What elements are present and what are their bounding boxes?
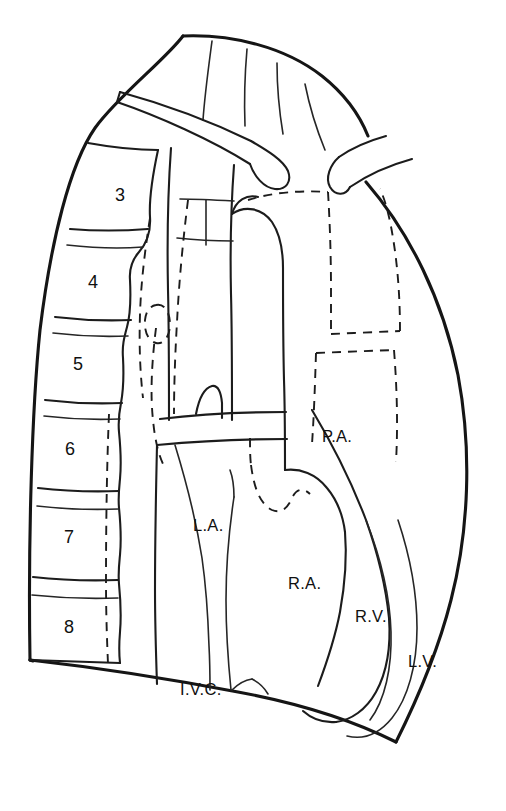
vertebra-label-7: 7 <box>64 527 74 547</box>
tracheal-ring-detail-2 <box>177 238 233 241</box>
vertebra-label-5: 5 <box>73 354 83 374</box>
vertebra-3-superior-endplate <box>88 143 158 150</box>
anatomy-illustration: 3 4 5 6 7 8 P.A. L.A. R.A. R.V. L.V. I.V… <box>0 0 506 811</box>
apex-rib-line-2 <box>245 49 247 126</box>
right-atrium-superior-border <box>285 470 345 532</box>
hilum-dashed-upper-boundary <box>248 191 328 200</box>
label-right-atrium: R.A. <box>288 574 321 592</box>
left-ventricle-border <box>347 520 417 737</box>
right-ventricle-anterior-border <box>336 618 389 722</box>
hilum-dashed-horizontal-2 <box>316 350 394 353</box>
disc-7-8-inferior <box>32 595 118 598</box>
right-atrial-appendage-dashed-left <box>250 438 251 465</box>
left-atrium-superior-arc <box>230 470 234 497</box>
pulmonary-outflow-inferior-border <box>157 439 287 445</box>
hilum-dashed-horizontal-1 <box>331 331 400 334</box>
vertebra-label-3: 3 <box>115 185 125 205</box>
diaphragm-outline <box>30 660 396 742</box>
disc-6-7-inferior <box>37 506 119 509</box>
posterior-cardiac-dashed-mid <box>174 200 188 414</box>
right-atrium-lateral-border <box>318 532 346 686</box>
left-atrium-lateral-margin <box>155 445 157 684</box>
hilum-dashed-lower-left-edge <box>312 353 316 444</box>
label-inferior-vena-cava: I.V.C. <box>180 680 222 698</box>
disc-4-5-inferior <box>53 333 128 336</box>
apex-rib-line-1 <box>203 41 212 120</box>
left-atrium-anterior-border <box>175 445 210 690</box>
clavicle-right-upper-edge <box>339 136 386 157</box>
bronchus-end-on-dashed-oval <box>145 305 170 344</box>
vertebra-4-inferior-endplate <box>55 317 131 320</box>
disc-3-4-inferior <box>67 245 143 248</box>
apex-rib-line-4 <box>305 84 325 150</box>
label-left-ventricle: L.V. <box>408 652 437 670</box>
trachea-anterior-wall <box>231 165 234 420</box>
label-pulmonary-artery: P.A. <box>322 427 352 445</box>
vertebral-anterior-border <box>119 150 158 663</box>
lateral-chest-diagram: 3 4 5 6 7 8 P.A. L.A. R.A. R.V. L.V. I.V… <box>0 0 506 811</box>
vertebra-6-inferior-endplate <box>38 488 119 491</box>
clavicle-right-medial-head <box>328 157 350 194</box>
inferior-vena-cava-left-edge <box>232 679 252 690</box>
vertebra-3-inferior-endplate <box>70 229 148 231</box>
label-right-ventricle: R.V. <box>355 607 387 625</box>
vertebra-label-4: 4 <box>88 272 98 292</box>
clavicle-right-lower-edge <box>350 159 412 187</box>
hilum-dashed-lower-right-edge <box>394 350 397 462</box>
vertebra-label-8: 8 <box>64 617 74 637</box>
descending-aorta-dashed-border <box>106 414 109 664</box>
clavicle-left-lateral-head <box>250 141 289 189</box>
apex-rib-line-3 <box>277 63 283 134</box>
left-atrium-posterior-border <box>226 497 234 690</box>
inferior-vena-cava-right-edge <box>252 679 268 694</box>
posterior-cardiac-dashed-border <box>152 328 165 468</box>
trachea-posterior-wall <box>168 148 171 420</box>
vertebra-label-6: 6 <box>65 439 75 459</box>
clavicle-left-upper-edge <box>120 92 251 141</box>
vertebra-5-inferior-endplate <box>45 400 122 403</box>
hilum-dashed-upper-right <box>328 192 331 334</box>
label-left-atrium: L.A. <box>193 516 224 534</box>
ascending-aorta-left-border <box>232 209 285 470</box>
